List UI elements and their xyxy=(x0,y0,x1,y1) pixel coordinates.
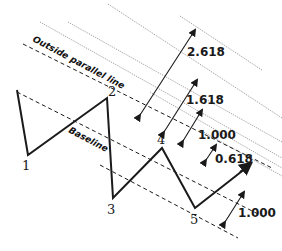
point-4-label: 4 xyxy=(157,132,165,147)
ratio-label-2618: 2.618 xyxy=(187,45,225,59)
ratio-label-0618: 0.618 xyxy=(215,152,253,166)
point-2-label: 2 xyxy=(108,84,116,99)
point-1-label: 1 xyxy=(22,158,30,173)
point-3-label: 3 xyxy=(107,202,115,217)
point-5-label: 5 xyxy=(190,212,198,227)
baseline-label: Baseline xyxy=(67,125,110,154)
ratio-label-1000-lower: 1.000 xyxy=(238,206,276,220)
outside-parallel-line-label: Outside parallel line xyxy=(31,34,126,91)
parallel-line-2618 xyxy=(180,16,262,70)
ratio-label-1000-upper: 1.000 xyxy=(198,128,236,142)
lower-channel-line xyxy=(100,165,238,238)
elliott-wave-channel-diagram: Outside parallel line Baseline 1 2 3 4 5… xyxy=(0,0,282,251)
ratio-label-1618: 1.618 xyxy=(186,93,224,107)
